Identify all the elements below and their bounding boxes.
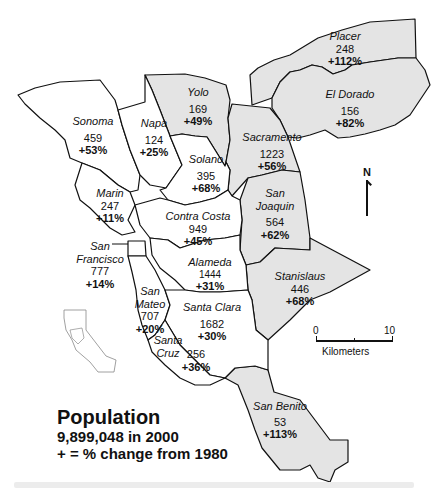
county-change: +112% <box>325 55 365 68</box>
legend-change-note: + = % change from 1980 <box>57 445 228 462</box>
figure-caption-illegible <box>14 482 414 488</box>
county-name: Contra Costa <box>160 210 236 223</box>
legend-total: 9,899,048 in 2000 <box>57 428 228 445</box>
county-population: 248 <box>325 43 365 56</box>
california-outline <box>64 310 116 372</box>
county-label-sonoma: Sonoma 459 +53% <box>68 115 118 157</box>
county-label-marin: Marin 247 +11% <box>92 187 128 225</box>
county-name: Santa <box>151 334 185 347</box>
county-label-santa-cruz-values: 256 +36% <box>179 348 213 373</box>
county-name: Sacramento <box>240 131 304 144</box>
county-change: +11% <box>92 212 128 225</box>
county-label-alameda: Alameda 1444 +31% <box>186 256 234 293</box>
county-label-napa: Napa 124 +25% <box>134 117 174 159</box>
county-population: 777 <box>74 265 126 278</box>
county-label-san-francisco: San Francisco 777 +14% <box>74 240 126 291</box>
county-label-santa-clara: Santa Clara 1682 +30% <box>180 301 244 343</box>
scale-end-label: 10 <box>384 325 395 336</box>
county-name: Marin <box>92 187 128 200</box>
map-legend: Population 9,899,048 in 2000 + = % chang… <box>57 406 228 462</box>
county-change: +53% <box>68 144 118 157</box>
county-name: Mateo <box>133 298 167 311</box>
county-population: 256 <box>179 348 213 361</box>
north-label: N <box>363 166 371 178</box>
scale-line <box>316 340 393 342</box>
county-population: 459 <box>68 132 118 145</box>
north-arrow-icon <box>366 180 368 216</box>
county-name: Francisco <box>74 253 126 266</box>
county-population: 247 <box>92 200 128 213</box>
county-population: 1682 <box>180 318 244 331</box>
county-label-contra-costa: Contra Costa 949 +45% <box>160 210 236 248</box>
county-name: Solano <box>184 153 228 166</box>
county-change: +31% <box>186 280 234 293</box>
county-name: San <box>133 285 167 298</box>
county-change: +82% <box>322 117 378 130</box>
county-label-san-benito: San Benito 53 +113% <box>248 400 312 441</box>
county-population: 169 <box>180 103 216 116</box>
county-population: 707 <box>133 310 167 323</box>
county-label-san-mateo: San Mateo 707 +20% <box>133 285 167 336</box>
county-population: 156 <box>322 105 378 118</box>
county-name: Joaquin <box>250 200 300 213</box>
county-label-solano: Solano 395 +68% <box>184 153 228 195</box>
county-name: Placer <box>325 30 365 43</box>
scale-unit-label: Kilometers <box>322 346 369 357</box>
county-name: San <box>74 240 126 253</box>
county-label-el-dorado: El Dorado 156 +82% <box>322 88 378 130</box>
county-label-stanislaus: Stanislaus 446 +68% <box>272 270 328 308</box>
county-change: +56% <box>240 160 304 173</box>
county-population: 1444 <box>186 269 234 281</box>
county-change: +68% <box>272 295 328 308</box>
legend-title: Population <box>57 406 228 428</box>
county-change: +113% <box>248 428 312 441</box>
county-change: +25% <box>134 146 174 159</box>
county-name: San <box>250 187 300 200</box>
county-population: 53 <box>248 416 312 429</box>
county-population: 1223 <box>240 148 304 161</box>
california-locator-inset <box>62 308 118 374</box>
county-name: San Benito <box>248 400 312 413</box>
county-shape-san-francisco <box>128 241 146 256</box>
north-arrow: N <box>363 166 377 218</box>
county-change: +14% <box>74 278 126 291</box>
county-change: +30% <box>180 330 244 343</box>
county-name: Sonoma <box>68 115 118 128</box>
county-label-sacramento: Sacramento 1223 +56% <box>240 131 304 173</box>
county-label-san-joaquin: San Joaquin 564 +62% <box>250 187 300 242</box>
county-change: +49% <box>180 115 216 128</box>
county-population: 446 <box>272 283 328 296</box>
county-name: Santa Clara <box>180 301 244 314</box>
scale-start-label: 0 <box>313 325 319 336</box>
county-population: 949 <box>160 223 236 236</box>
county-name: Napa <box>134 117 174 130</box>
county-change: +62% <box>250 229 300 242</box>
county-name: Stanislaus <box>272 270 328 283</box>
county-name: Yolo <box>180 86 216 99</box>
county-name: El Dorado <box>322 88 378 101</box>
county-change: +36% <box>179 361 213 374</box>
county-label-yolo: Yolo 169 +49% <box>180 86 216 128</box>
county-name: Alameda <box>186 256 234 269</box>
county-change: +45% <box>160 235 236 248</box>
county-population: 395 <box>184 170 228 183</box>
county-change: +68% <box>184 182 228 195</box>
county-population: 124 <box>134 134 174 147</box>
county-population: 564 <box>250 216 300 229</box>
county-label-placer: Placer 248 +112% <box>325 30 365 68</box>
